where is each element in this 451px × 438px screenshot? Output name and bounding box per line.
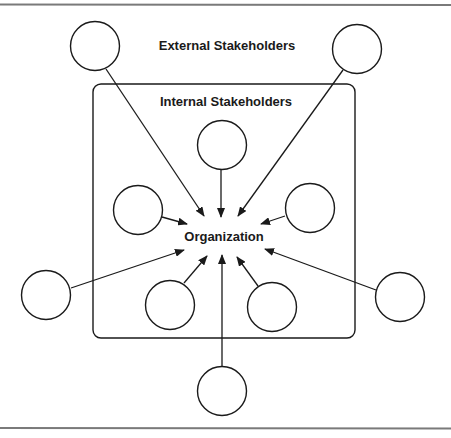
external-stakeholder-circle-ext-left: [22, 271, 71, 320]
external-stakeholders-group: [22, 22, 425, 416]
arrow-from-int-right: [261, 216, 285, 224]
internal-stakeholder-circle-int-right: [286, 184, 335, 233]
external-stakeholders-label: External Stakeholders: [159, 38, 296, 53]
organization-label: Organization: [184, 229, 264, 244]
arrow-from-int-bottom-right: [237, 257, 258, 286]
internal-stakeholders-group: [114, 121, 335, 332]
bottom-rule: [0, 428, 451, 429]
internal-stakeholder-circle-int-bottom-left: [146, 281, 195, 330]
internal-stakeholders-boundary: [93, 84, 355, 338]
top-rule: [0, 5, 451, 6]
arrow-from-int-left: [162, 217, 187, 224]
internal-stakeholder-circle-int-bottom-right: [248, 283, 297, 332]
internal-stakeholder-circle-int-left: [114, 186, 163, 235]
stakeholder-diagram: External Stakeholders Internal Stakehold…: [0, 0, 451, 438]
external-stakeholder-circle-ext-top-left: [71, 22, 120, 71]
internal-stakeholder-circle-int-top: [198, 121, 247, 170]
external-stakeholder-circle-ext-right: [376, 273, 425, 322]
internal-stakeholders-label: Internal Stakeholders: [160, 94, 292, 109]
external-stakeholder-circle-ext-bottom: [198, 367, 247, 416]
arrow-from-ext-left: [71, 250, 184, 288]
arrows-group: [71, 69, 376, 367]
arrow-from-int-bottom-left: [184, 256, 207, 283]
external-stakeholder-circle-ext-top-right: [333, 25, 382, 74]
arrow-from-ext-top-left: [106, 69, 204, 216]
